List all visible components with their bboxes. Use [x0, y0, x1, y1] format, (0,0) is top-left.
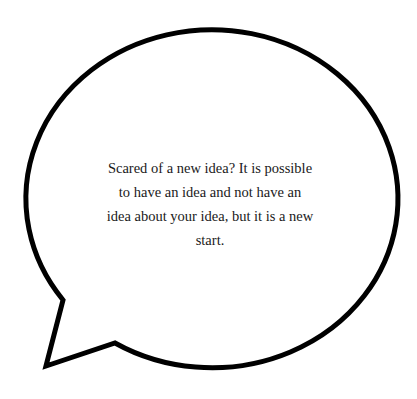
- speech-bubble-text: Scared of a new idea? It is possible to …: [105, 156, 315, 252]
